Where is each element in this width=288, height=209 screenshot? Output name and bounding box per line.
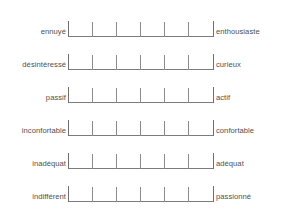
scale-row: indifférent passionné — [0, 170, 288, 202]
scale-tick-2[interactable] — [92, 88, 93, 103]
scale-tick-1[interactable] — [68, 153, 69, 169]
scale-tick-4[interactable] — [140, 187, 141, 202]
pole-label-right: enthousiaste — [214, 27, 286, 37]
scale-tick-2[interactable] — [92, 55, 93, 70]
scale-tick-7[interactable] — [213, 21, 214, 37]
scale-track[interactable] — [68, 46, 214, 70]
scale-tick-7[interactable] — [213, 54, 214, 70]
scale-tick-5[interactable] — [164, 121, 165, 136]
pole-label-left: indifférent — [0, 192, 68, 202]
scale-tick-3[interactable] — [116, 55, 117, 70]
scale-baseline — [68, 69, 214, 70]
scale-tick-4[interactable] — [140, 55, 141, 70]
scale-tick-2[interactable] — [92, 154, 93, 169]
scale-track[interactable] — [68, 178, 214, 202]
scale-tick-4[interactable] — [140, 121, 141, 136]
scale-tick-1[interactable] — [68, 186, 69, 202]
scale-tick-6[interactable] — [188, 187, 189, 202]
scale-tick-5[interactable] — [164, 187, 165, 202]
scale-tick-5[interactable] — [164, 154, 165, 169]
scale-tick-7[interactable] — [213, 186, 214, 202]
pole-label-left: passif — [0, 93, 68, 103]
pole-label-right: curieux — [214, 60, 286, 70]
scale-tick-3[interactable] — [116, 121, 117, 136]
scale-track[interactable] — [68, 13, 214, 37]
pole-label-right: confortable — [214, 126, 286, 136]
scale-track[interactable] — [68, 112, 214, 136]
scale-tick-2[interactable] — [92, 187, 93, 202]
scale-tick-7[interactable] — [213, 153, 214, 169]
scale-row: inadéquat adéquat — [0, 137, 288, 169]
scale-baseline — [68, 102, 214, 103]
scale-tick-6[interactable] — [188, 55, 189, 70]
scale-tick-4[interactable] — [140, 88, 141, 103]
scale-baseline — [68, 201, 214, 202]
pole-label-left: désintéressé — [0, 60, 68, 70]
scale-tick-5[interactable] — [164, 88, 165, 103]
semantic-differential-form: ennuyé enthousiaste désintéressé curieux — [0, 0, 288, 209]
pole-label-right: actif — [214, 93, 286, 103]
pole-label-left: inconfortable — [0, 126, 68, 136]
scale-tick-5[interactable] — [164, 22, 165, 37]
scale-tick-3[interactable] — [116, 88, 117, 103]
scale-tick-1[interactable] — [68, 21, 69, 37]
scale-baseline — [68, 168, 214, 169]
scale-tick-6[interactable] — [188, 121, 189, 136]
scale-row: désintéressé curieux — [0, 38, 288, 70]
scale-tick-2[interactable] — [92, 121, 93, 136]
scale-tick-6[interactable] — [188, 154, 189, 169]
scale-tick-7[interactable] — [213, 87, 214, 103]
scale-track[interactable] — [68, 145, 214, 169]
scale-tick-5[interactable] — [164, 55, 165, 70]
scale-track[interactable] — [68, 79, 214, 103]
scale-tick-6[interactable] — [188, 88, 189, 103]
scale-row: inconfortable confortable — [0, 104, 288, 136]
pole-label-left: ennuyé — [0, 27, 68, 37]
scale-baseline — [68, 135, 214, 136]
pole-label-right: passionné — [214, 192, 286, 202]
scale-tick-3[interactable] — [116, 22, 117, 37]
scale-tick-1[interactable] — [68, 120, 69, 136]
scale-tick-1[interactable] — [68, 87, 69, 103]
pole-label-left: inadéquat — [0, 159, 68, 169]
scale-tick-4[interactable] — [140, 22, 141, 37]
scale-tick-6[interactable] — [188, 22, 189, 37]
scale-row: passif actif — [0, 71, 288, 103]
pole-label-right: adéquat — [214, 159, 286, 169]
scale-baseline — [68, 36, 214, 37]
scale-tick-4[interactable] — [140, 154, 141, 169]
scale-tick-7[interactable] — [213, 120, 214, 136]
scale-tick-3[interactable] — [116, 187, 117, 202]
scale-tick-2[interactable] — [92, 22, 93, 37]
scale-tick-3[interactable] — [116, 154, 117, 169]
scale-tick-1[interactable] — [68, 54, 69, 70]
scale-row: ennuyé enthousiaste — [0, 5, 288, 37]
